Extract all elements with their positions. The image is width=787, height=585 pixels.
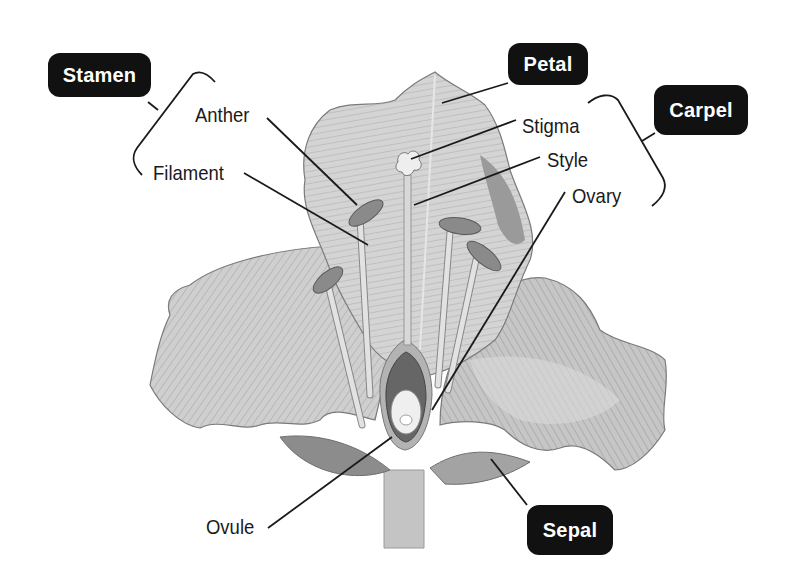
flower-diagram: Stamen Petal Carpel Sepal Anther Filamen… <box>0 0 787 585</box>
stamen-bracket-tick <box>148 102 158 110</box>
stamen-badge: Stamen <box>48 53 151 97</box>
stigma-label: Stigma <box>522 115 580 136</box>
style-label: Style <box>547 149 588 170</box>
stem <box>384 470 424 548</box>
ovary-label: Ovary <box>572 185 621 206</box>
sepal-badge: Sepal <box>527 505 613 555</box>
ovule-label: Ovule <box>206 516 254 537</box>
filament-label: Filament <box>153 162 224 183</box>
carpel-bracket-tick <box>642 133 655 141</box>
carpel-badge: Carpel <box>654 85 748 135</box>
anther-label: Anther <box>195 104 249 125</box>
petal-badge: Petal <box>508 43 588 85</box>
